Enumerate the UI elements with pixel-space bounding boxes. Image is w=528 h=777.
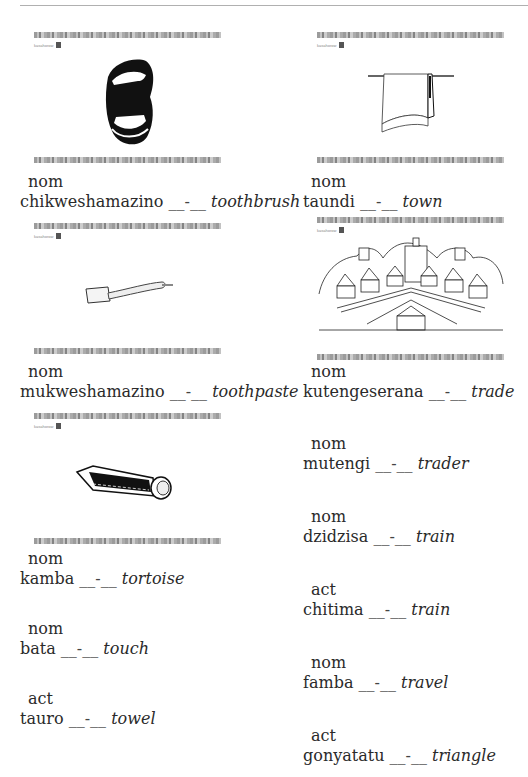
english-word: train [416, 527, 455, 546]
shona-word: tauro [20, 709, 64, 728]
entry-taundi: nom taundi __-__ town [303, 172, 443, 212]
brand-text: kasahorow [34, 424, 53, 429]
blank-placeholder: __-__ [69, 709, 106, 728]
entry-mukweshamazino: nom mukweshamazino __-__ toothpaste [20, 362, 299, 402]
shona-word: famba [303, 673, 353, 692]
shona-word: kutengeserana [303, 382, 424, 401]
part-of-speech: nom [20, 362, 299, 382]
part-of-speech: nom [20, 619, 149, 639]
shona-word: bata [20, 639, 56, 658]
brand-logo-icon [56, 423, 61, 429]
brand-label: kasahorow [317, 41, 504, 49]
english-word: train [411, 600, 450, 619]
english-word: trader [418, 454, 469, 473]
part-of-speech: act [303, 726, 496, 746]
town-icon [317, 234, 504, 354]
part-of-speech: nom [303, 653, 448, 673]
entry-gonyatatu: act gonyatatu __-__ triangle [303, 726, 496, 766]
card-top-stripe [34, 223, 221, 229]
entry-kamba: nom kamba __-__ tortoise [20, 549, 184, 589]
vocab-line: chitima __-__ train [303, 600, 450, 620]
english-word: travel [401, 673, 448, 692]
vocab-line: mukweshamazino __-__ toothpaste [20, 382, 299, 402]
shona-word: kamba [20, 569, 74, 588]
vocab-line: dzidzisa __-__ train [303, 527, 455, 547]
vocab-line: taundi __-__ town [303, 192, 443, 212]
brand-text: kasahorow [34, 43, 53, 48]
shona-word: mutengi [303, 454, 370, 473]
english-word: touch [103, 639, 149, 658]
entry-bata: nom bata __-__ touch [20, 619, 149, 659]
vocab-line: famba __-__ travel [303, 673, 448, 693]
brand-logo-icon [56, 233, 61, 239]
entry-kutengeserana: nom kutengeserana __-__ trade [303, 362, 515, 402]
english-word: trade [471, 382, 514, 401]
brand-label: kasahorow [34, 422, 221, 430]
part-of-speech: nom [303, 434, 469, 454]
english-word: toothbrush [211, 192, 300, 211]
brand-label: kasahorow [34, 41, 221, 49]
part-of-speech: nom [303, 362, 515, 382]
flashcard-toothpaste: kasahorow [34, 413, 221, 544]
card-top-stripe [317, 217, 504, 223]
entry-chitima: act chitima __-__ train [303, 580, 450, 620]
vocab-line: mutengi __-__ trader [303, 454, 469, 474]
blank-placeholder: __-__ [369, 600, 406, 619]
card-top-stripe [34, 413, 221, 419]
flashcard-town: kasahorow [317, 217, 504, 360]
part-of-speech: nom [20, 172, 300, 192]
blank-placeholder: __-__ [429, 382, 466, 401]
english-word: triangle [432, 746, 496, 765]
shona-word: gonyatatu [303, 746, 384, 765]
brand-text: kasahorow [317, 228, 336, 233]
english-word: toothpaste [212, 382, 298, 401]
blank-placeholder: __-__ [61, 639, 98, 658]
entry-dzidzisa: nom dzidzisa __-__ train [303, 507, 455, 547]
brand-logo-icon [339, 227, 344, 233]
header-rule [20, 5, 528, 6]
blank-placeholder: __-__ [79, 569, 116, 588]
blank-placeholder: __-__ [360, 192, 397, 211]
toothbrush-icon [34, 240, 221, 348]
blank-placeholder: __-__ [170, 382, 207, 401]
blank-placeholder: __-__ [169, 192, 206, 211]
vocab-line: tauro __-__ towel [20, 709, 156, 729]
flashcard-mouth: kasahorow [34, 32, 221, 163]
brand-text: kasahorow [34, 234, 53, 239]
vocab-line: kutengeserana __-__ trade [303, 382, 515, 402]
towel-icon [317, 49, 504, 157]
english-word: tortoise [122, 569, 185, 588]
entry-chikweshamazino: nom chikweshamazino __-__ toothbrush [20, 172, 300, 212]
brand-logo-icon [339, 42, 344, 48]
english-word: town [403, 192, 443, 211]
brand-label: kasahorow [34, 232, 221, 240]
blank-placeholder: __-__ [375, 454, 412, 473]
part-of-speech: act [303, 580, 450, 600]
vocab-line: kamba __-__ tortoise [20, 569, 184, 589]
shona-word: dzidzisa [303, 527, 368, 546]
entry-famba: nom famba __-__ travel [303, 653, 448, 693]
card-top-stripe [34, 32, 221, 38]
brand-text: kasahorow [317, 43, 336, 48]
card-bottom-stripe [317, 354, 504, 360]
card-bottom-stripe [34, 538, 221, 544]
card-bottom-stripe [34, 348, 221, 354]
toothpaste-icon [34, 430, 221, 538]
part-of-speech: nom [20, 549, 184, 569]
shona-word: chitima [303, 600, 364, 619]
blank-placeholder: __-__ [390, 746, 427, 765]
card-top-stripe [317, 32, 504, 38]
flashcard-towel: kasahorow [317, 32, 504, 163]
shona-word: mukweshamazino [20, 382, 165, 401]
english-word: towel [111, 709, 155, 728]
part-of-speech: nom [303, 507, 455, 527]
blank-placeholder: __-__ [359, 673, 396, 692]
vocab-line: chikweshamazino __-__ toothbrush [20, 192, 300, 212]
brand-label: kasahorow [317, 226, 504, 234]
entry-mutengi: nom mutengi __-__ trader [303, 434, 469, 474]
part-of-speech: nom [303, 172, 443, 192]
mouth-icon [34, 49, 221, 157]
card-bottom-stripe [34, 157, 221, 163]
vocab-line: bata __-__ touch [20, 639, 149, 659]
entry-tauro: act tauro __-__ towel [20, 689, 156, 729]
